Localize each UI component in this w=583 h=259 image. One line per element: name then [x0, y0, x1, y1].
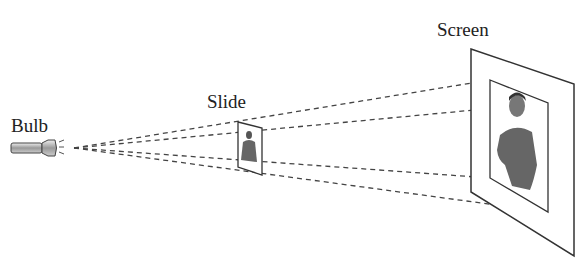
screen [471, 49, 574, 256]
projection-diagram: Bulb Slide Screen [0, 0, 583, 259]
flashlight-icon [11, 140, 64, 156]
screen-label: Screen [437, 19, 489, 41]
slide-label: Slide [207, 91, 246, 113]
slide [238, 122, 262, 175]
bulb-label: Bulb [11, 115, 48, 137]
diagram-canvas [0, 0, 583, 259]
